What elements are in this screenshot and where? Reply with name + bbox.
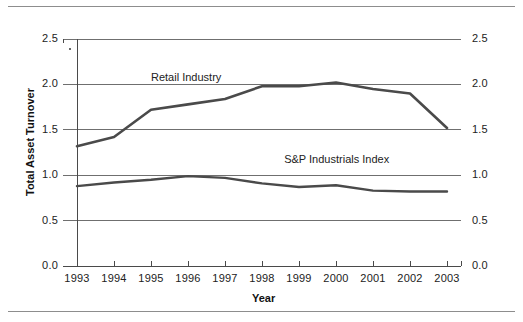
x-tick-label-1993: 1993 xyxy=(57,272,97,284)
x-tick-label-1998: 1998 xyxy=(242,272,282,284)
stray-speck-mark xyxy=(69,48,71,50)
y-axis-title: Total Asset Turnover xyxy=(24,88,36,196)
x-tick-label-2001: 2001 xyxy=(353,272,393,284)
series-line-retail-industry xyxy=(77,83,447,147)
x-tick-label-2000: 2000 xyxy=(316,272,356,284)
series-label-retail-industry: Retail Industry xyxy=(151,71,221,83)
x-tick-label-1997: 1997 xyxy=(205,272,245,284)
y-tick-label-left-0.5: 0.5 xyxy=(28,214,58,226)
y-tick-label-right-2.5: 2.5 xyxy=(472,32,502,44)
y-tick-label-right-0.0: 0.0 xyxy=(472,259,502,271)
x-tick-marks-group xyxy=(77,261,447,266)
figure: 0.00.51.01.52.02.5 0.00.51.01.52.02.5 19… xyxy=(0,0,523,322)
chart-plot-area: 0.00.51.01.52.02.5 0.00.51.01.52.02.5 19… xyxy=(0,0,523,322)
x-tick-label-2002: 2002 xyxy=(390,272,430,284)
x-tick-label-1996: 1996 xyxy=(168,272,208,284)
x-tick-label-2003: 2003 xyxy=(427,272,467,284)
x-tick-label-1994: 1994 xyxy=(94,272,134,284)
series-line-s-p-industrials-index xyxy=(77,176,447,191)
y-tick-label-right-1.0: 1.0 xyxy=(472,168,502,180)
axis-lines-group xyxy=(63,39,461,266)
y-tick-label-left-0.0: 0.0 xyxy=(28,259,58,271)
series-label-s-p-industrials-index: S&P Industrials Index xyxy=(284,153,389,165)
x-axis-title: Year xyxy=(252,292,275,304)
y-tick-label-left-2.5: 2.5 xyxy=(28,32,58,44)
y-tick-label-right-2.0: 2.0 xyxy=(472,77,502,89)
x-tick-label-1995: 1995 xyxy=(131,272,171,284)
x-tick-label-1999: 1999 xyxy=(279,272,319,284)
y-tick-label-right-0.5: 0.5 xyxy=(472,214,502,226)
y-tick-label-right-1.5: 1.5 xyxy=(472,123,502,135)
